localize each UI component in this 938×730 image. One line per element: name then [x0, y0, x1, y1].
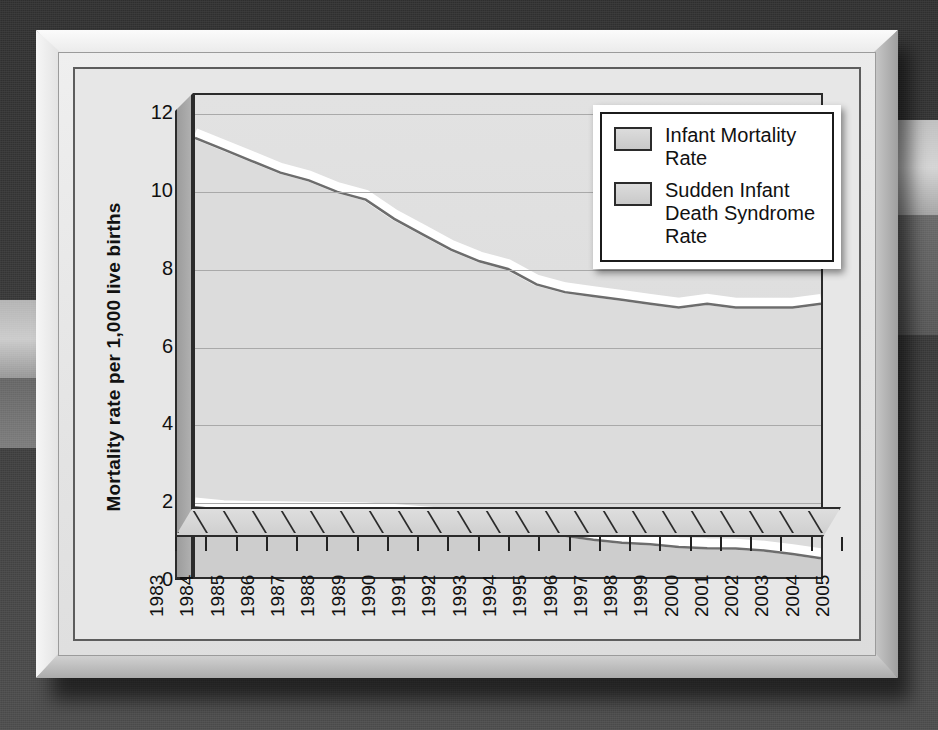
grid-line	[195, 425, 821, 426]
chart-legend-inner: Infant Mortality RateSudden Infant Death…	[600, 112, 834, 262]
x-axis-tick-label: 1990	[358, 575, 380, 617]
legend-item-label: Infant Mortality Rate	[665, 124, 816, 170]
x-axis-tick-label: 1987	[267, 575, 289, 617]
x-axis-tick-label: 2003	[751, 575, 773, 617]
grid-line	[195, 348, 821, 349]
x-axis-tick-label: 1983	[146, 575, 168, 617]
x-axis-tick-label: 1984	[176, 575, 198, 617]
chart-plaque: Mortality rate per 1,000 live births 121…	[36, 30, 898, 678]
legend-item[interactable]: Infant Mortality Rate	[614, 124, 816, 170]
x-axis-tick-label: 2002	[721, 575, 743, 617]
x-axis-tick-mark	[841, 537, 843, 551]
x-axis-tick-label: 2001	[691, 575, 713, 617]
y-axis-tick-label: 10	[151, 179, 173, 202]
x-axis-tick-label: 1999	[630, 575, 652, 617]
y-axis-ticks: 121086420	[131, 93, 175, 579]
x-axis-tick-label: 1989	[328, 575, 350, 617]
y-axis-title-text: Mortality rate per 1,000 live births	[103, 202, 125, 511]
legend-item-label: Sudden Infant Death Syndrome Rate	[665, 179, 816, 248]
x-axis-labels: 1983198419851986198719881989199019911992…	[175, 521, 841, 621]
legend-swatch-icon	[614, 182, 652, 206]
area-chart: Mortality rate per 1,000 live births 121…	[105, 93, 841, 621]
x-axis-tick-label: 2005	[812, 575, 834, 617]
plaque-bevel-left	[36, 30, 60, 678]
grid-line	[195, 270, 821, 271]
plaque-bevel-bottom	[36, 654, 898, 678]
x-axis-tick-label: 1991	[388, 575, 410, 617]
y-axis-tick-label: 8	[162, 256, 173, 279]
y-axis-tick-label: 2	[162, 490, 173, 513]
plaque-face: Mortality rate per 1,000 live births 121…	[58, 52, 876, 656]
plaque-inner-border: Mortality rate per 1,000 live births 121…	[73, 67, 861, 641]
y-axis-tick-label: 12	[151, 101, 173, 124]
x-axis-tick-label: 1996	[540, 575, 562, 617]
x-axis-tick-label: 1998	[600, 575, 622, 617]
y-axis-title: Mortality rate per 1,000 live births	[101, 93, 127, 621]
x-axis-tick-label: 2000	[661, 575, 683, 617]
y-axis-tick-label: 4	[162, 412, 173, 435]
x-axis-tick-label: 1988	[297, 575, 319, 617]
x-axis-tick-label: 1994	[479, 575, 501, 617]
grid-line	[195, 503, 821, 504]
x-axis-tick-label: 1992	[418, 575, 440, 617]
plaque-bevel-right	[874, 30, 898, 678]
x-axis-tick-label: 1995	[509, 575, 531, 617]
chart-legend[interactable]: Infant Mortality RateSudden Infant Death…	[593, 105, 841, 269]
x-axis-tick-label: 1986	[237, 575, 259, 617]
x-axis-tick-label: 1993	[449, 575, 471, 617]
x-axis-tick-label: 1997	[570, 575, 592, 617]
legend-swatch-icon	[614, 127, 652, 151]
x-axis-tick-label: 2004	[782, 575, 804, 617]
legend-item[interactable]: Sudden Infant Death Syndrome Rate	[614, 179, 816, 248]
y-axis-tick-label: 6	[162, 334, 173, 357]
x-axis-tick-label: 1985	[207, 575, 229, 617]
